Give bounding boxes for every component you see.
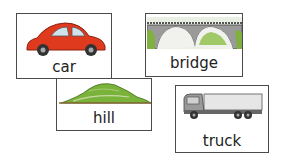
hill-icon <box>59 81 151 105</box>
flashcard-truck: truck <box>175 85 269 153</box>
flashcard-hill: hill <box>56 78 152 131</box>
card-word: truck <box>176 132 268 150</box>
flashcard-bridge: bridge <box>145 13 243 77</box>
bridge-icon <box>147 17 242 49</box>
card-word: bridge <box>146 54 242 72</box>
truck-icon <box>182 92 266 120</box>
card-word: car <box>17 58 111 76</box>
flashcard-car: car <box>16 13 112 79</box>
card-word: hill <box>57 109 151 127</box>
car-icon <box>21 18 109 58</box>
